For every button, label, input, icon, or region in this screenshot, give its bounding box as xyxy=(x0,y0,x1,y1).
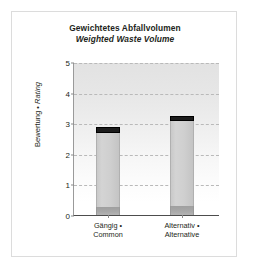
y-tick-label: 0 xyxy=(66,212,70,221)
chart-title-english: Weighted Waste Volume xyxy=(12,34,238,45)
plot-area: 012345 Gängig •CommonAlternativ •Alterna… xyxy=(73,63,219,216)
chart-title-german: Gewichtetes Abfallvolumen xyxy=(12,23,238,34)
x-tick-label-line1: Gängig • xyxy=(93,221,123,230)
y-tick-mark xyxy=(71,185,74,186)
y-axis-label-separator: • xyxy=(33,104,42,111)
bar-group[interactable] xyxy=(170,62,194,215)
y-axis-label: Bewertung • Rating xyxy=(33,45,42,185)
y-axis-label-english: Rating xyxy=(33,82,42,104)
chart-card: Gewichtetes Abfallvolumen Weighted Waste… xyxy=(11,11,237,257)
bar-segment-body[interactable] xyxy=(170,121,194,206)
bar-group[interactable] xyxy=(96,62,120,215)
y-tick-mark xyxy=(71,93,74,94)
y-axis-label-german: Bewertung xyxy=(33,111,42,147)
y-tick-label: 3 xyxy=(66,120,70,129)
y-tick-mark xyxy=(71,63,74,64)
bar-stack[interactable] xyxy=(170,116,194,215)
x-tick-label: Gängig •Common xyxy=(93,221,123,239)
x-tick-label-line2: Common xyxy=(93,230,123,239)
bar-segment-base[interactable] xyxy=(96,207,120,215)
y-tick-label: 1 xyxy=(66,181,70,190)
bar-segment-body[interactable] xyxy=(96,133,120,207)
x-tick-label-line1: Alternativ • xyxy=(165,221,200,230)
chart-title: Gewichtetes Abfallvolumen Weighted Waste… xyxy=(12,23,238,45)
bar-segment-base[interactable] xyxy=(170,206,194,215)
y-tick-mark xyxy=(71,216,74,217)
x-tick-mark xyxy=(108,215,109,218)
y-tick-mark xyxy=(71,124,74,125)
x-tick-mark xyxy=(182,215,183,218)
x-tick-label: Alternativ •Alternative xyxy=(165,221,200,239)
x-tick-label-line2: Alternative xyxy=(165,230,200,239)
bar-stack[interactable] xyxy=(96,127,120,215)
y-tick-label: 2 xyxy=(66,150,70,159)
y-tick-mark xyxy=(71,154,74,155)
y-tick-label: 5 xyxy=(66,59,70,68)
y-tick-label: 4 xyxy=(66,89,70,98)
